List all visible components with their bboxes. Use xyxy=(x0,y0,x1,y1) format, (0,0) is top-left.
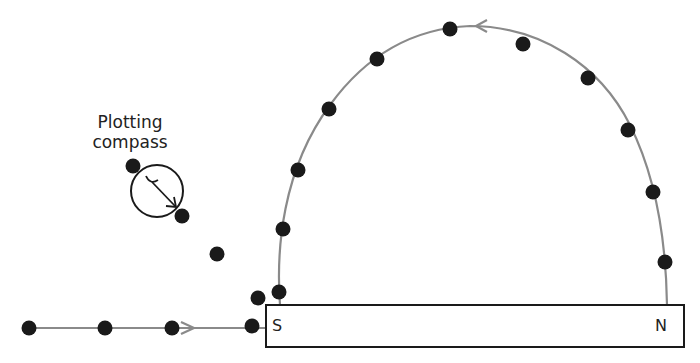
plot-dot xyxy=(322,102,337,117)
plot-dot xyxy=(443,22,458,37)
bar-magnet xyxy=(266,305,684,347)
plot-dot xyxy=(165,321,180,336)
compass-label-line1: Plotting xyxy=(80,112,180,132)
plot-dot xyxy=(646,185,661,200)
plot-dot xyxy=(251,291,266,306)
plot-dot xyxy=(22,321,37,336)
plot-dot xyxy=(272,285,287,300)
plot-dot xyxy=(175,209,190,224)
plot-dot xyxy=(370,52,385,67)
field-line-arc xyxy=(279,26,667,305)
plot-dots xyxy=(22,22,673,336)
plot-dot xyxy=(245,319,260,334)
plot-dot xyxy=(98,321,113,336)
compass-label-line2: compass xyxy=(80,132,180,152)
plot-dot xyxy=(210,247,225,262)
plot-dot xyxy=(516,37,531,52)
plot-dot xyxy=(276,222,291,237)
plot-dot xyxy=(621,123,636,138)
compass-label: Plotting compass xyxy=(80,112,180,152)
plot-dot xyxy=(291,163,306,178)
plotting-compass xyxy=(131,165,183,217)
plot-dot xyxy=(658,255,673,270)
south-pole-label: S xyxy=(272,316,282,335)
field-diagram xyxy=(0,0,700,363)
north-pole-label: N xyxy=(655,316,667,335)
plot-dot xyxy=(126,159,141,174)
plot-dot xyxy=(581,71,596,86)
